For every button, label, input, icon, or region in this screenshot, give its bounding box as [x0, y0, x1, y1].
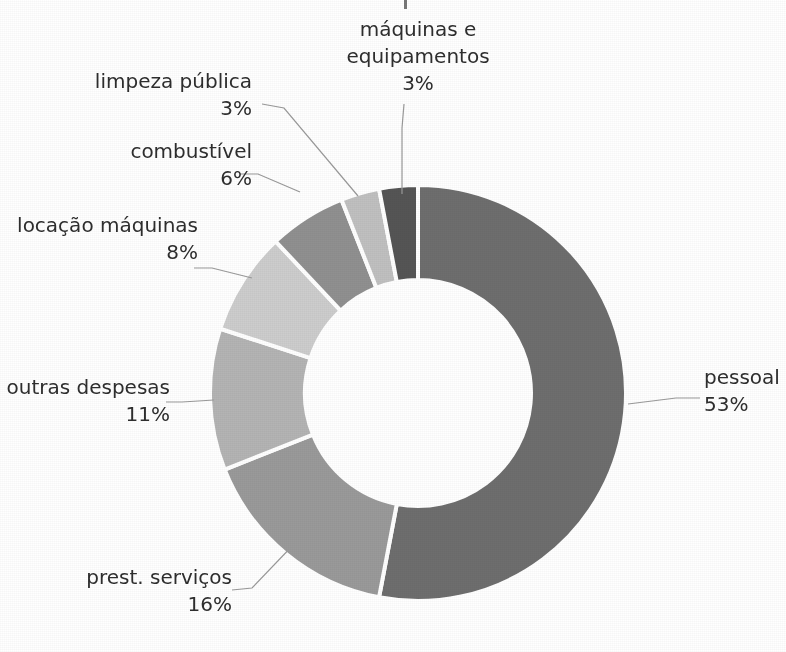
slice-label-text: pessoal	[704, 365, 780, 389]
slice-label-text: outras despesas	[6, 375, 170, 399]
slice-label: prest. serviços16%	[86, 565, 232, 616]
slice-label-text: combustível	[130, 139, 252, 163]
slice-label: máquinas eequipamentos3%	[346, 17, 489, 95]
leader-line	[402, 104, 404, 194]
slice-value-text: 3%	[402, 71, 434, 95]
slice-label: limpeza pública3%	[95, 69, 252, 120]
slice-label-text: prest. serviços	[86, 565, 232, 589]
slice-label-text: equipamentos	[346, 44, 489, 68]
slice-label-text: máquinas e	[360, 17, 477, 41]
donut-chart-canvas: pessoal53%prest. serviços16%outras despe…	[0, 0, 786, 652]
donut-slices-group	[210, 185, 626, 601]
slice-label: outras despesas11%	[6, 375, 170, 426]
slice-value-text: 16%	[188, 592, 232, 616]
leader-line	[628, 398, 700, 404]
slice-label: combustível6%	[130, 139, 252, 190]
leader-line	[166, 400, 214, 402]
slice-label: locação máquinas8%	[17, 213, 198, 264]
slice-label-text: locação máquinas	[17, 213, 198, 237]
slice-value-text: 53%	[704, 392, 748, 416]
slice-value-text: 6%	[220, 166, 252, 190]
slice-value-text: 3%	[220, 96, 252, 120]
slice-value-text: 8%	[166, 240, 198, 264]
slice-label: pessoal53%	[704, 365, 780, 416]
cut-off-title	[404, 0, 407, 9]
donut-chart-figure: pessoal53%prest. serviços16%outras despe…	[0, 0, 786, 652]
slice-value-text: 11%	[126, 402, 170, 426]
slice-label-text: limpeza pública	[95, 69, 252, 93]
